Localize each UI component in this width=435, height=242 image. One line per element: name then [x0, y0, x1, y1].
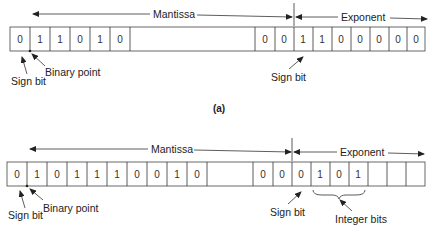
bit-cell: 0	[357, 34, 363, 45]
bit-cell: 0	[281, 34, 287, 45]
bit-cell: 1	[37, 34, 43, 45]
exponent-span-arrow-b: Exponent	[294, 146, 424, 158]
bit-cell: 0	[14, 169, 20, 180]
binary-point-dot-a	[29, 50, 32, 53]
mantissa-label-b: Mantissa	[151, 143, 193, 155]
exponent-sign-bit-cell: 0	[298, 169, 304, 180]
integer-bits-label: Integer bits	[335, 213, 387, 225]
panel-b: Mantissa Exponent	[7, 138, 425, 225]
bit-cell: 0	[134, 169, 140, 180]
bit-cell: 1	[74, 169, 80, 180]
bit-cell: 0	[413, 34, 419, 45]
integer-bits-annotation: Integer bits	[313, 190, 387, 225]
sign-bit-label-a: Sign bit	[11, 75, 46, 87]
integer-bits-brace-icon	[313, 190, 365, 199]
bit-cell: 1	[319, 34, 325, 45]
exponent-label-a: Exponent	[341, 11, 385, 23]
bit-cell: 1	[57, 34, 63, 45]
bit-cell: 1	[174, 169, 180, 180]
bit-cell: 1	[114, 169, 120, 180]
bit-cell: 0	[376, 34, 382, 45]
bit-cell: 0	[338, 34, 344, 45]
bit-cell: 0	[77, 34, 83, 45]
bit-cell: 0	[154, 169, 160, 180]
bit-cell: 0	[262, 34, 268, 45]
register-row-a: 0 1 1 0 1 0 0 0 1 1 0 0 0 0 0	[10, 27, 425, 51]
sign-bit-annotation-a: Sign bit	[11, 57, 46, 87]
register-row-b: 0 1 0 1 1 1 0 0 1 0 0 0 0 1 0 1	[7, 162, 425, 186]
binary-point-dot-b	[26, 185, 29, 188]
bit-cell: 0	[279, 169, 285, 180]
bit-cell: 0	[17, 34, 23, 45]
sign-bit-label-b: Sign bit	[8, 209, 43, 221]
bit-cell: 0	[395, 34, 401, 45]
integer-bit-cell: 0	[336, 169, 342, 180]
mantissa-span-arrow-b: Mantissa	[30, 143, 291, 155]
bit-cell: 1	[97, 34, 103, 45]
exponent-sign-bit-cell: 1	[300, 34, 306, 45]
integer-bit-cell: 1	[317, 169, 323, 180]
exponent-sign-bit-label-a: Sign bit	[271, 71, 306, 83]
integer-bit-cell: 1	[355, 169, 361, 180]
exponent-sign-bit-label-b: Sign bit	[270, 206, 305, 218]
bit-cell: 0	[260, 169, 266, 180]
panel-caption-a: (a)	[213, 103, 225, 114]
panel-a: Mantissa Exponent	[10, 3, 427, 114]
exponent-sign-bit-annotation-b: Sign bit	[270, 192, 305, 218]
binary-point-label-a: Binary point	[45, 66, 101, 78]
floating-point-diagram: Mantissa Exponent	[0, 0, 435, 242]
exponent-label-b: Exponent	[340, 146, 384, 158]
bit-cell: 0	[117, 34, 123, 45]
binary-point-label-b: Binary point	[43, 202, 99, 214]
bit-cell: 0	[54, 169, 60, 180]
exponent-span-arrow-a: Exponent	[296, 11, 427, 23]
bit-cell: 1	[94, 169, 100, 180]
mantissa-span-arrow-a: Mantissa	[33, 8, 292, 20]
bit-cell: 0	[194, 169, 200, 180]
exponent-sign-bit-annotation-a: Sign bit	[271, 57, 306, 83]
mantissa-label-a: Mantissa	[153, 8, 195, 20]
bit-cell: 1	[34, 169, 40, 180]
